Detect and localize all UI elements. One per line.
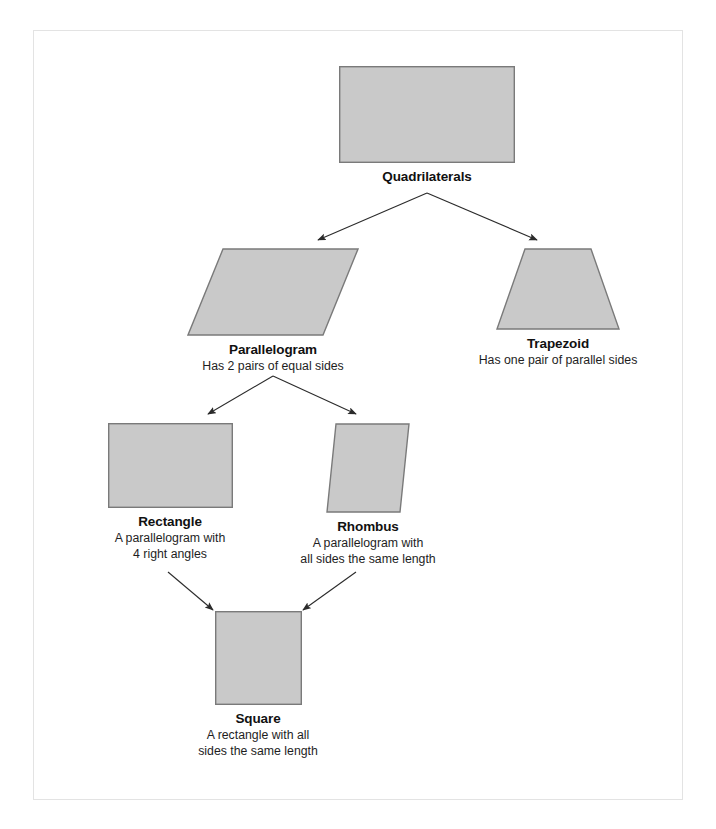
edge-quadrilaterals-to-trapezoid — [427, 193, 537, 240]
node-rectangle: Rectangle A parallelogram with 4 right a… — [60, 423, 280, 562]
quadrilateral-classification-diagram: Quadrilaterals Parallelogram Has 2 pairs… — [0, 0, 716, 829]
node-label-square: Square — [162, 710, 354, 727]
node-quadrilaterals: Quadrilaterals — [296, 66, 558, 186]
node-label-rectangle: Rectangle — [60, 513, 280, 530]
node-rhombus: Rhombus A parallelogram with all sides t… — [270, 423, 466, 567]
node-description-rectangle: A parallelogram with 4 right angles — [60, 531, 280, 562]
edge-quadrilaterals-to-parallelogram — [318, 193, 427, 240]
shape-rectangle — [108, 423, 233, 508]
node-parallelogram: Parallelogram Has 2 pairs of equal sides — [150, 248, 396, 375]
node-trapezoid: Trapezoid Has one pair of parallel sides — [452, 248, 664, 369]
node-label-trapezoid: Trapezoid — [452, 335, 664, 352]
node-description-square: A rectangle with all sides the same leng… — [162, 728, 354, 759]
node-description-rhombus: A parallelogram with all sides the same … — [270, 536, 466, 567]
shape-rhombus — [326, 423, 410, 513]
edge-rhombus-to-square — [303, 572, 356, 610]
shape-trapezoid — [496, 248, 620, 330]
node-description-trapezoid: Has one pair of parallel sides — [452, 353, 664, 369]
node-square: Square A rectangle with all sides the sa… — [162, 611, 354, 759]
node-description-parallelogram: Has 2 pairs of equal sides — [150, 359, 396, 375]
node-label-rhombus: Rhombus — [270, 518, 466, 535]
node-label-quadrilaterals: Quadrilaterals — [296, 168, 558, 185]
edge-parallelogram-to-rhombus — [273, 376, 356, 414]
shape-parallelogram — [187, 248, 359, 336]
shape-rectangle-quadrilaterals — [339, 66, 515, 163]
edge-parallelogram-to-rectangle — [208, 376, 273, 414]
node-label-parallelogram: Parallelogram — [150, 341, 396, 358]
shape-square — [215, 611, 302, 705]
edge-rectangle-to-square — [168, 572, 213, 610]
